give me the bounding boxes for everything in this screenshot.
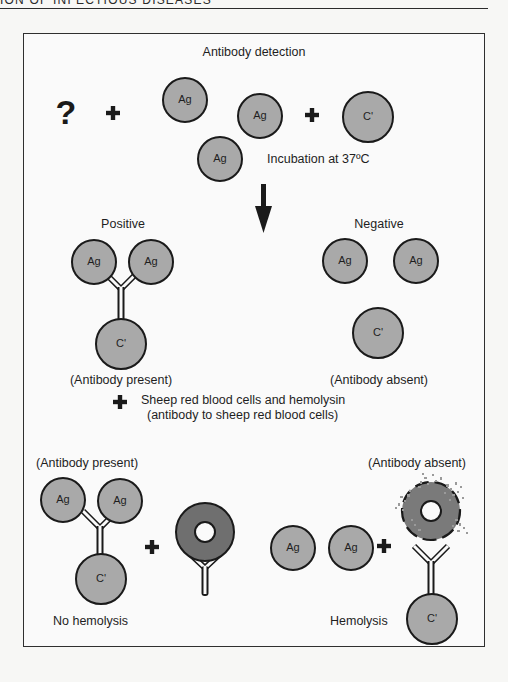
outcome-left-caption-top: (Antibody present) xyxy=(36,456,138,470)
antigen-label: Ag xyxy=(344,541,357,553)
outcome-left-caption-bottom: No hemolysis xyxy=(53,614,128,628)
complement-label: C' xyxy=(116,337,126,349)
antigen-label: Ag xyxy=(87,255,100,267)
incubation-text: Incubation at 37ºC xyxy=(267,152,370,166)
antigen-label: Ag xyxy=(338,254,351,266)
plus-icon xyxy=(145,540,159,554)
complement-label: C' xyxy=(96,572,106,584)
outcome-right-caption-bottom: Hemolysis xyxy=(330,614,388,628)
plus-icon xyxy=(377,539,391,553)
antigen-label: Ag xyxy=(56,493,69,505)
indicator-line-2: (antibody to sheep red blood cells) xyxy=(147,408,338,422)
antigen-label: Ag xyxy=(113,494,126,506)
svg-text:?: ? xyxy=(56,93,77,131)
positive-caption: (Antibody present) xyxy=(70,373,172,387)
complement-label: C' xyxy=(373,326,383,338)
positive-title: Positive xyxy=(101,217,145,231)
negative-caption: (Antibody absent) xyxy=(330,373,428,387)
complement-label: C' xyxy=(427,612,437,624)
antigen-label: Ag xyxy=(213,152,226,164)
antigen-label: Ag xyxy=(178,93,191,105)
plus-icon xyxy=(106,106,120,120)
negative-title: Negative xyxy=(354,217,403,231)
lysed-sheep-rbc-icon xyxy=(395,473,468,595)
antigen-label: Ag xyxy=(253,109,266,121)
antigen-label: Ag xyxy=(286,541,299,553)
indicator-line-1: Sheep red blood cells and hemolysin xyxy=(141,393,345,407)
antigen-label: Ag xyxy=(409,254,422,266)
arrow-down-icon xyxy=(255,184,272,233)
figure-title: Antibody detection xyxy=(203,45,306,59)
complement-fixation-diagram: ? xyxy=(0,0,508,682)
question-mark-icon: ? xyxy=(56,93,77,131)
complement-label: C' xyxy=(363,110,373,122)
plus-icon xyxy=(305,108,319,122)
plus-icon xyxy=(113,395,127,409)
sheep-rbc-with-hemolysin-icon xyxy=(176,503,234,596)
antigen-label: Ag xyxy=(144,255,157,267)
outcome-right-caption-top: (Antibody absent) xyxy=(368,456,466,470)
